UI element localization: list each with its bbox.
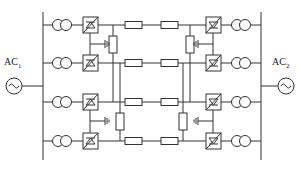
ac1-source-icon [6, 78, 43, 94]
rectifier-icon [83, 17, 98, 33]
circuit-svg [0, 0, 301, 170]
converter-row [43, 133, 261, 149]
inverter-icon [206, 17, 221, 33]
converter-row [43, 55, 261, 71]
transformer-icon [232, 136, 251, 147]
converter-row [43, 17, 261, 33]
resistor-icon [125, 22, 142, 29]
transformer-icon [53, 58, 72, 69]
transformer-icon [53, 97, 72, 108]
resistor-icon [125, 60, 142, 67]
converter-row [43, 94, 261, 110]
resistor-icon [179, 113, 187, 130]
resistor-icon [161, 138, 178, 145]
converter-rows [43, 17, 261, 149]
resistor-icon [109, 36, 117, 53]
transformer-icon [232, 58, 251, 69]
inverter-icon [206, 133, 221, 149]
resistor-icon [161, 99, 178, 106]
transformer-icon [53, 20, 72, 31]
rectifier-icon [83, 94, 98, 110]
resistor-icon [125, 99, 142, 106]
resistor-icon [186, 36, 194, 53]
circuit-diagram: AC1 AC2 [0, 0, 301, 170]
dc-interconnects [109, 25, 194, 141]
transformer-icon [232, 97, 251, 108]
resistor-icon [161, 22, 178, 29]
resistor-icon [116, 113, 124, 130]
inverter-icon [206, 55, 221, 71]
ac2-source-icon [261, 78, 294, 94]
rectifier-icon [83, 133, 98, 149]
inverter-icon [206, 94, 221, 110]
resistor-icon [125, 138, 142, 145]
ground-icons [90, 33, 213, 133]
transformer-icon [53, 136, 72, 147]
resistor-icon [161, 60, 178, 67]
rectifier-icon [83, 55, 98, 71]
transformer-icon [232, 20, 251, 31]
